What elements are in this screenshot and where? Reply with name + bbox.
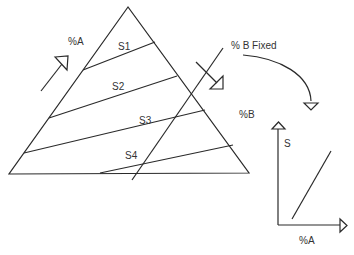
inset-y-label: S — [284, 138, 291, 149]
region-label-s4: S4 — [125, 150, 138, 161]
b-fixed-label: % B Fixed — [231, 40, 277, 51]
percent-b-label: %B — [239, 109, 255, 120]
b-fixed-line — [132, 48, 223, 180]
inset-trend-line — [292, 151, 331, 219]
percent-a-arrow-shaft — [41, 64, 62, 91]
region-label-s2: S2 — [112, 81, 125, 92]
boundary-line-s4 — [100, 145, 233, 173]
arrow-up-right-icon — [55, 56, 68, 70]
b-direction-arrow-shaft — [196, 62, 217, 83]
y-axis-arrow-icon — [272, 122, 285, 129]
inset-x-label: %A — [299, 235, 315, 246]
x-axis-arrow-icon — [340, 219, 347, 232]
arrow-down-icon — [304, 103, 318, 110]
percent-a-label: %A — [68, 36, 84, 47]
region-label-s3: S3 — [139, 115, 152, 126]
boundary-line-s3 — [24, 110, 205, 153]
region-label-s1: S1 — [118, 41, 131, 52]
curved-arrow-shaft — [243, 55, 311, 101]
diagram-canvas: S1 S2 S3 S4 %A % B Fixed %B S %A — [0, 0, 354, 255]
